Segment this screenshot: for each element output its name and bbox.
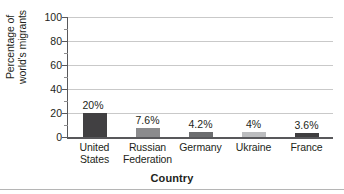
y-axis-tick-label: 60 <box>50 60 62 70</box>
bar-chart: Percentage of world's migrants 020406080… <box>0 0 344 194</box>
x-axis-category-label: RussianFederation <box>121 141 174 165</box>
bar-group[interactable]: 20% <box>83 17 107 137</box>
bar-value-label: 20% <box>83 100 104 111</box>
bar-value-label: 4.2% <box>189 119 213 130</box>
y-axis-tick-minor <box>64 29 68 30</box>
y-axis-tick-major <box>62 137 68 138</box>
bar[interactable] <box>83 113 107 137</box>
x-axis-category-label: France <box>280 141 333 153</box>
bar[interactable] <box>242 132 266 137</box>
y-axis-tick-minor <box>64 101 68 102</box>
bar-group[interactable]: 3.6% <box>295 17 319 137</box>
x-axis-line <box>67 137 333 139</box>
x-axis-category-label: UnitedStates <box>68 141 121 165</box>
plot-area: 20%7.6%4.2%4%3.6% <box>68 17 333 137</box>
y-axis-tick-label: 80 <box>50 36 62 46</box>
y-axis-tick-labels: 020406080100 <box>26 0 62 194</box>
x-axis-category-label-line: France <box>280 141 333 153</box>
bar[interactable] <box>189 132 213 137</box>
y-axis-tick-minor <box>64 77 68 78</box>
bar-value-label: 4% <box>246 119 261 130</box>
bottom-divider <box>0 189 344 190</box>
bar[interactable] <box>295 133 319 137</box>
x-axis-category-label: Ukraine <box>227 141 280 153</box>
x-axis-category-label-line: United <box>68 141 121 153</box>
x-axis-category-label-line: States <box>68 153 121 165</box>
y-axis-tick-label: 20 <box>50 108 62 118</box>
y-axis-tick-major <box>62 113 68 114</box>
bar-value-label: 3.6% <box>295 120 319 131</box>
bar-group[interactable]: 4.2% <box>189 17 213 137</box>
y-axis-title-line-1: Percentage of <box>4 15 16 79</box>
y-axis-tick-major <box>62 17 68 18</box>
bar-value-label: 7.6% <box>136 115 160 126</box>
bar[interactable] <box>136 128 160 137</box>
y-axis-tick-major <box>62 89 68 90</box>
y-axis-tick-major <box>62 65 68 66</box>
x-axis-category-label: Germany <box>174 141 227 153</box>
x-axis-title: Country <box>0 172 344 184</box>
y-axis-tick-minor <box>64 53 68 54</box>
x-axis-category-label-line: Germany <box>174 141 227 153</box>
y-axis-tick-minor <box>64 125 68 126</box>
x-axis-category-labels: UnitedStatesRussianFederationGermanyUkra… <box>68 141 333 173</box>
x-axis-category-label-line: Federation <box>121 153 174 165</box>
x-axis-category-label-line: Ukraine <box>227 141 280 153</box>
y-axis-tick-label: 100 <box>44 12 62 22</box>
x-axis-category-label-line: Russian <box>121 141 174 153</box>
bar-group[interactable]: 4% <box>242 17 266 137</box>
y-axis-tick-major <box>62 41 68 42</box>
y-axis-tick-label: 40 <box>50 84 62 94</box>
bar-group[interactable]: 7.6% <box>136 17 160 137</box>
